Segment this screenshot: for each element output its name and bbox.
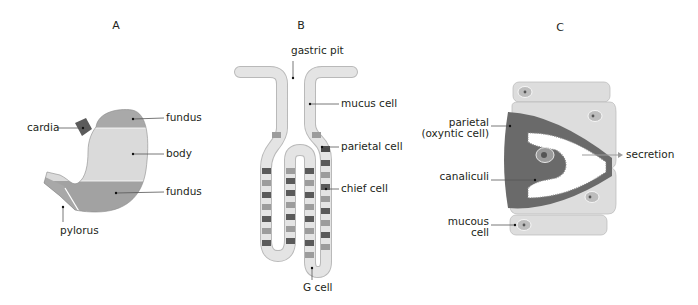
label-mucous-2: cell	[471, 226, 489, 238]
body-region	[30, 128, 160, 181]
panel-b-title: B	[297, 19, 305, 32]
label-gastric-pit: gastric pit	[291, 44, 344, 56]
label-fundus-top: fundus	[166, 111, 202, 123]
label-canaliculi: canaliculi	[440, 170, 489, 182]
label-parietal-cell: parietal cell	[341, 140, 403, 152]
label-cardia: cardia	[27, 121, 59, 133]
gastric-gland	[240, 72, 352, 272]
panel-b: B	[240, 19, 403, 293]
panel-a: A cardia fundus body	[27, 19, 202, 236]
label-pylorus: pylorus	[60, 224, 99, 236]
panel-c: C secretion parietal (oxyntic cell)	[421, 21, 674, 238]
panel-a-title: A	[112, 19, 120, 32]
label-fundus-bottom: fundus	[166, 185, 202, 197]
label-chief-cell: chief cell	[341, 182, 388, 194]
label-g-cell: G cell	[303, 281, 333, 293]
panel-c-title: C	[556, 21, 564, 34]
gastric-diagram: A cardia fundus body	[0, 0, 698, 305]
label-secretion: secretion	[626, 148, 674, 160]
label-body: body	[166, 147, 192, 159]
arrow-head-icon	[618, 152, 623, 158]
label-parietal-2: (oxyntic cell)	[421, 127, 489, 139]
label-mucus-cell: mucus cell	[341, 97, 397, 109]
